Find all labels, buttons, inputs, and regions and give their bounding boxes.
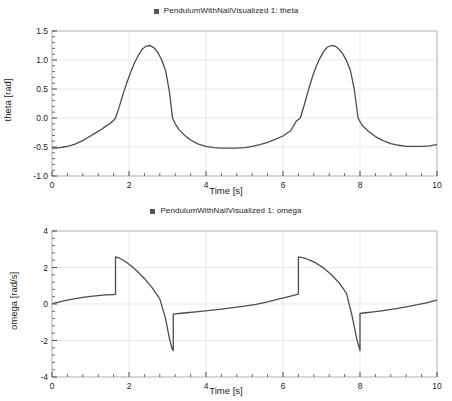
svg-text:-2: -2 xyxy=(40,336,48,346)
svg-text:4: 4 xyxy=(43,226,48,236)
svg-text:0: 0 xyxy=(43,299,48,309)
omega-line-chart: -4-20240246810 xyxy=(0,200,452,401)
svg-text:-4: -4 xyxy=(40,372,48,382)
theta-line-chart: -1.0-0.50.00.51.01.50246810 xyxy=(0,0,452,200)
plot-area-omega: -4-20240246810 xyxy=(0,200,452,401)
svg-text:0.5: 0.5 xyxy=(36,84,48,94)
svg-text:-0.5: -0.5 xyxy=(33,142,48,152)
chart-panel-theta: PendulumWithNailVisualized 1: theta -1.0… xyxy=(0,0,452,200)
x-axis-label-omega: Time [s] xyxy=(0,385,452,396)
svg-text:-1.0: -1.0 xyxy=(33,171,48,181)
svg-text:0.0: 0.0 xyxy=(36,113,48,123)
plot-area-theta: -1.0-0.50.00.51.01.50246810 xyxy=(0,0,452,200)
y-axis-label-omega: omega [rad/s] xyxy=(8,271,19,329)
chart-panel-omega: PendulumWithNailVisualized 1: omega -4-2… xyxy=(0,200,452,401)
svg-text:2: 2 xyxy=(43,263,48,273)
svg-text:1.5: 1.5 xyxy=(36,26,48,36)
svg-text:1.0: 1.0 xyxy=(36,55,48,65)
x-axis-label-theta: Time [s] xyxy=(0,185,452,196)
y-axis-label-theta: theta [rad] xyxy=(2,79,13,122)
